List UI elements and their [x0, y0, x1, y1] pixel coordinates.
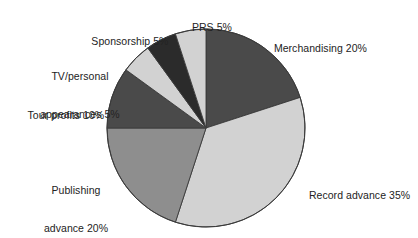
pie-chart-figure: PRS 5% Sponsorship 5% TV/personal appear… — [0, 0, 418, 238]
slice-label-publishing-advance-line2: advance 20% — [24, 222, 128, 235]
slice-label-tour-profits-text: Tour profits 10% — [28, 109, 105, 121]
slice-label-tour-profits: Tour profits 10% — [8, 96, 112, 134]
slice-label-publishing-advance-line1: Publishing — [24, 184, 128, 197]
slice-label-record-advance-text: Record advance 35% — [309, 189, 410, 201]
slice-label-prs: PRS 5% — [171, 8, 241, 46]
slice-label-tv-personal-appearances-line1: TV/personal — [28, 70, 132, 83]
slice-label-merchandising: Merchandising 20% — [262, 29, 392, 67]
slice-label-publishing-advance: Publishing advance 20% — [24, 159, 128, 238]
slice-label-prs-text: PRS 5% — [192, 21, 232, 33]
slice-label-record-advance: Record advance 35% — [297, 176, 413, 214]
slice-label-merchandising-text: Merchandising 20% — [274, 42, 367, 54]
